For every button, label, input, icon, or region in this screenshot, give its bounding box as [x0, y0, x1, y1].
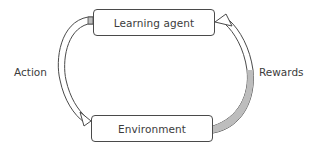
action-arrow: [58, 17, 93, 126]
edge-label-action: Action: [14, 66, 47, 78]
node-environment: Environment: [91, 115, 213, 142]
diagram-canvas: Learning agent Environment Action Reward…: [0, 0, 322, 152]
rewards-arrow: [213, 14, 253, 133]
node-label: Learning agent: [114, 17, 195, 29]
node-label: Environment: [118, 123, 186, 135]
edge-label-rewards: Rewards: [259, 66, 304, 78]
node-learning-agent: Learning agent: [93, 9, 215, 36]
